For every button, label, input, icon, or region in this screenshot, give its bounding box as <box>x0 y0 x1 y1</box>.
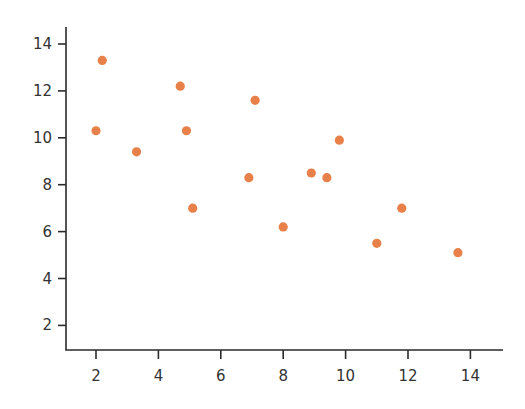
y-axis: 2468101214 <box>33 27 503 350</box>
x-tick-label: 12 <box>398 367 417 385</box>
data-point <box>307 168 316 177</box>
x-tick-label: 10 <box>336 367 355 385</box>
data-point <box>372 239 381 248</box>
data-point <box>176 82 185 91</box>
axis-frame <box>66 27 503 350</box>
data-point <box>182 126 191 135</box>
data-point <box>188 204 197 213</box>
y-tick-label: 14 <box>33 35 52 53</box>
y-tick-label: 2 <box>42 316 52 334</box>
data-point <box>453 248 462 257</box>
y-tick-label: 4 <box>42 270 52 288</box>
x-tick-label: 6 <box>216 367 226 385</box>
x-tick-label: 2 <box>91 367 101 385</box>
y-tick-label: 10 <box>33 129 52 147</box>
y-tick-label: 12 <box>33 82 52 100</box>
scatter-chart: 2468101214 2468101214 <box>0 0 525 409</box>
x-tick-label: 14 <box>461 367 480 385</box>
x-axis: 2468101214 <box>91 350 480 385</box>
data-point <box>397 204 406 213</box>
x-tick-label: 4 <box>154 367 164 385</box>
data-point <box>322 173 331 182</box>
data-point <box>132 147 141 156</box>
data-point <box>91 126 100 135</box>
y-tick-label: 8 <box>42 176 52 194</box>
data-point <box>335 136 344 145</box>
data-point <box>98 56 107 65</box>
data-point <box>244 173 253 182</box>
y-tick-label: 6 <box>42 223 52 241</box>
data-point <box>251 96 260 105</box>
data-points <box>91 56 462 257</box>
x-tick-label: 8 <box>278 367 288 385</box>
data-point <box>279 222 288 231</box>
